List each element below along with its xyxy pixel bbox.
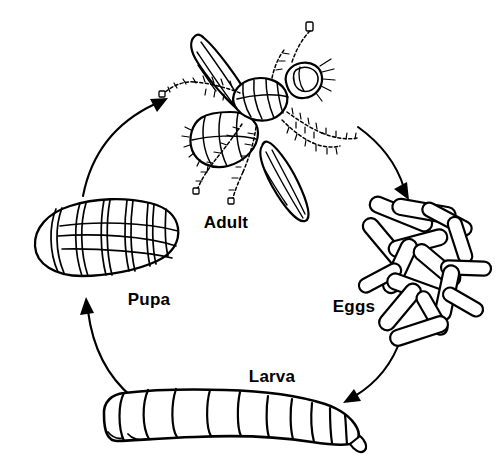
larva-maggot-drawing <box>104 389 366 452</box>
adult-fly-drawing <box>159 22 357 221</box>
stage-label-eggs: Eggs <box>333 297 375 316</box>
arrow-larva-to-pupa <box>80 297 132 397</box>
stage-label-pupa: Pupa <box>128 290 171 309</box>
arrow-eggs-to-larva <box>343 338 401 403</box>
eggs-cluster-drawing <box>356 194 491 348</box>
arrow-adult-to-eggs <box>358 127 409 200</box>
pupa-case-drawing <box>35 199 178 276</box>
life-cycle-illustration: Adult Eggs Larva Pupa <box>0 0 502 475</box>
arrow-pupa-to-adult <box>83 98 168 196</box>
fly-life-cycle-diagram: Adult Eggs Larva Pupa <box>0 0 502 475</box>
stage-label-larva: Larva <box>249 367 296 386</box>
stage-label-adult: Adult <box>204 213 249 232</box>
